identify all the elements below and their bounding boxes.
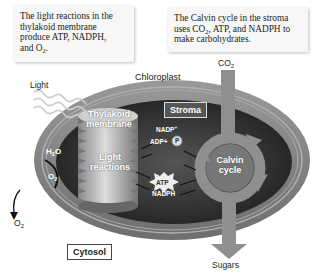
sugar-output-arrow bbox=[222, 196, 236, 246]
co2-input-arrow bbox=[221, 70, 235, 135]
light-label: Light bbox=[30, 80, 48, 90]
nadph-label: NADPH bbox=[152, 190, 175, 197]
atp-label: ATP bbox=[156, 179, 169, 186]
cytosol-label: Cytosol bbox=[67, 244, 112, 260]
co2-input-label: CO2 bbox=[218, 58, 234, 68]
h2o-label: H2O bbox=[46, 147, 61, 156]
stroma-label: Stroma bbox=[164, 102, 207, 118]
chloroplast-label: Chloroplast bbox=[135, 72, 181, 82]
calvin-cycle-label: Calvincycle bbox=[206, 155, 254, 175]
o2-released-label: O2 bbox=[14, 218, 24, 228]
o2-produced-label: O2 bbox=[48, 172, 57, 181]
phosphate-label: P bbox=[175, 137, 179, 144]
nadp-label: NADP+ bbox=[156, 126, 177, 133]
thylakoid-membrane-label: Thylakoidmembrane bbox=[80, 109, 138, 129]
adp-label: ADP+ bbox=[150, 138, 168, 145]
sugars-label: Sugars bbox=[212, 260, 239, 270]
light-reactions-label: Lightreactions bbox=[82, 152, 138, 172]
